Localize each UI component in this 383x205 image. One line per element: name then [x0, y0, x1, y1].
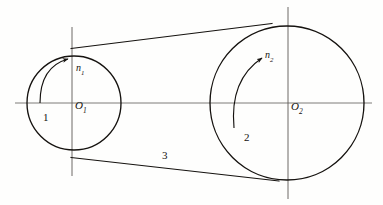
large-center-subscript: 2: [299, 107, 303, 116]
large-pulley-speed-label: n2: [265, 50, 273, 63]
small-center-letter: O: [75, 99, 83, 111]
small-pulley-speed-label: n1: [76, 63, 84, 76]
large-speed-subscript: 2: [270, 56, 273, 63]
belt-lines: [71, 24, 279, 182]
small-center-subscript: 1: [83, 106, 87, 115]
small-speed-subscript: 1: [81, 69, 84, 76]
rotation-arrows: [40, 58, 262, 128]
belt-drive-figure: 1 2 3 O1 O2 n1 n2: [0, 0, 383, 205]
belt-upper-span: [71, 24, 272, 49]
small-pulley-rotation-arrow: [40, 59, 68, 103]
small-pulley-part-label: 1: [43, 112, 49, 123]
large-pulley-rotation-arrow: [233, 58, 262, 128]
figure-canvas: [0, 0, 383, 205]
large-center-letter: O: [291, 100, 299, 112]
belt-part-label: 3: [162, 150, 168, 161]
small-pulley-center-label: O1: [75, 100, 87, 114]
large-pulley-part-label: 2: [244, 132, 250, 143]
large-pulley-center-label: O2: [291, 101, 303, 115]
axis-lines: [15, 7, 372, 199]
